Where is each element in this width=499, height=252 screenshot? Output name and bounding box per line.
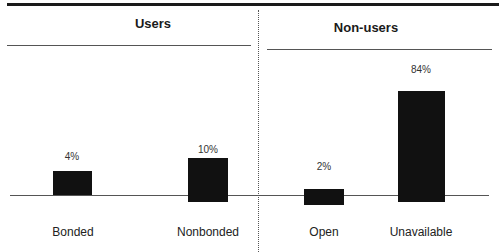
panel-underline-nonusers: [267, 49, 492, 50]
panel-title-nonusers: Non-users: [311, 20, 421, 35]
category-label-bonded: Bonded: [18, 225, 128, 239]
category-label-nonbonded: Nonbonded: [153, 225, 263, 239]
value-label-bonded: 4%: [47, 151, 97, 162]
bar-bonded: [53, 171, 92, 195]
value-label-unavailable: 84%: [396, 64, 446, 75]
bar-open: [304, 189, 344, 205]
category-label-open: Open: [269, 225, 379, 239]
panel-underline-users: [7, 45, 251, 46]
bar-unavailable: [398, 91, 445, 202]
chart-root: Users Non-users 4% 10% 2% 84% Bonded Non…: [0, 0, 499, 252]
value-label-open: 2%: [299, 161, 349, 172]
value-label-nonbonded: 10%: [183, 144, 233, 155]
panel-divider: [258, 10, 259, 252]
category-label-unavailable: Unavailable: [366, 225, 476, 239]
top-rule: [7, 3, 499, 6]
panel-title-users: Users: [103, 16, 203, 31]
bar-nonbonded: [188, 158, 228, 202]
